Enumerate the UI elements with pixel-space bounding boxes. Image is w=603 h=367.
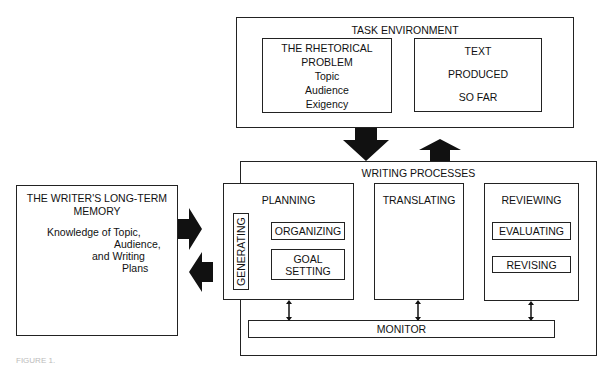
memory-knowledge-3: and Writing (92, 250, 145, 262)
rhetorical-item-exigency: Exigency (263, 98, 391, 110)
arrow-down-icon (343, 128, 389, 162)
monitor-label: MONITOR (249, 323, 554, 335)
translating-title: TRANSLATING (375, 194, 463, 206)
goal-setting-line-1: GOAL (272, 253, 344, 265)
rhetorical-problem-title-2: PROBLEM (263, 56, 391, 68)
figure-caption: FIGURE 1. (16, 356, 55, 365)
text-produced-line-3: SO FAR (415, 91, 541, 103)
reviewing-title: REVIEWING (485, 194, 578, 206)
rhetorical-problem-title-1: THE RHETORICAL (263, 42, 391, 54)
revising-label: REVISING (493, 259, 570, 271)
task-environment-title: TASK ENVIRONMENT (237, 24, 573, 36)
goal-setting-box: GOAL SETTING (271, 249, 345, 280)
memory-title-1: THE WRITER'S LONG-TERM (17, 192, 177, 204)
rhetorical-problem-box: THE RHETORICAL PROBLEM Topic Audience Ex… (262, 38, 392, 113)
generating-box: GENERATING (233, 213, 249, 290)
organizing-box: ORGANIZING (271, 222, 345, 240)
memory-knowledge-4: Plans (122, 262, 148, 274)
rhetorical-item-audience: Audience (263, 84, 391, 96)
goal-setting-line-2: SETTING (272, 265, 344, 277)
writing-processes-title: WRITING PROCESSES (241, 167, 596, 179)
memory-knowledge-2: Audience, (114, 238, 161, 250)
memory-knowledge-1: Knowledge of Topic, (27, 226, 157, 238)
arrow-up-icon (419, 139, 461, 162)
text-produced-line-2: PRODUCED (415, 68, 541, 80)
organizing-label: ORGANIZING (272, 225, 344, 237)
revising-box: REVISING (492, 256, 571, 273)
rhetorical-item-topic: Topic (263, 70, 391, 82)
monitor-box: MONITOR (248, 320, 555, 338)
text-produced-box: TEXT PRODUCED SO FAR (414, 38, 542, 112)
long-term-memory-box: THE WRITER'S LONG-TERM MEMORY Knowledge … (16, 185, 178, 336)
evaluating-label: EVALUATING (493, 225, 570, 237)
double-arrow-translating-monitor-icon (414, 300, 422, 321)
reviewing-box: REVIEWING (484, 183, 579, 301)
translating-box: TRANSLATING (374, 183, 464, 300)
double-arrow-planning-monitor-icon (285, 300, 293, 321)
planning-title: PLANNING (224, 194, 353, 206)
double-arrow-reviewing-monitor-icon (527, 301, 535, 321)
text-produced-line-1: TEXT (415, 45, 541, 57)
arrow-left-icon (189, 252, 213, 292)
evaluating-box: EVALUATING (492, 222, 571, 240)
arrow-right-icon (178, 208, 202, 250)
memory-title-2: MEMORY (17, 205, 177, 217)
